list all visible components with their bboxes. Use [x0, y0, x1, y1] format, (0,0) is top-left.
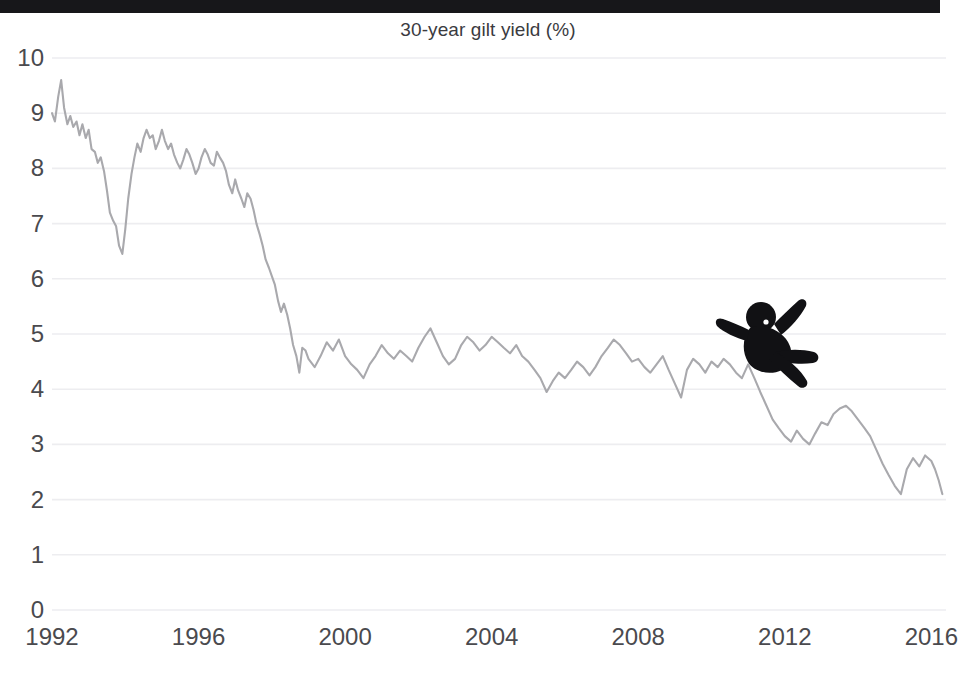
- x-tick-label: 1996: [172, 625, 225, 649]
- x-tick-label: 1992: [25, 625, 78, 649]
- x-tick-label: 2016: [905, 625, 958, 649]
- y-tick-label: 1: [10, 543, 44, 567]
- series-line-0: [52, 80, 942, 494]
- x-tick-label: 2000: [318, 625, 371, 649]
- falling-person-icon: [714, 296, 830, 396]
- figure-left-arm: [716, 318, 749, 341]
- x-tick-label: 2012: [758, 625, 811, 649]
- y-tick-label: 8: [10, 156, 44, 180]
- y-axis: 012345678910: [0, 0, 44, 683]
- data-series-group: [52, 80, 942, 494]
- y-tick-label: 10: [10, 46, 44, 70]
- figure-eye-highlight: [763, 319, 768, 324]
- x-tick-label: 2008: [612, 625, 665, 649]
- y-tick-label: 7: [10, 212, 44, 236]
- figure-right-arm: [774, 299, 806, 335]
- chart-page: 30-year gilt yield (%) 012345678910 1992…: [0, 0, 976, 683]
- y-tick-label: 0: [10, 598, 44, 622]
- y-tick-label: 5: [10, 322, 44, 346]
- y-tick-label: 4: [10, 377, 44, 401]
- y-tick-label: 3: [10, 432, 44, 456]
- x-tick-label: 2004: [465, 625, 518, 649]
- y-tick-label: 2: [10, 488, 44, 512]
- y-tick-label: 6: [10, 267, 44, 291]
- y-tick-label: 9: [10, 101, 44, 125]
